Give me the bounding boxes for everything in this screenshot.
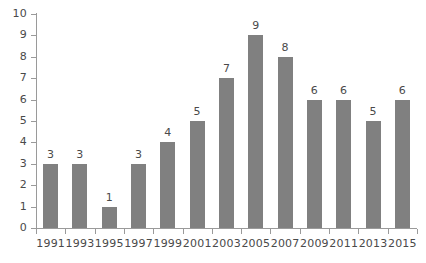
x-axis-tick: [124, 229, 125, 234]
y-axis-tick: [31, 57, 36, 58]
y-axis-tick: [31, 100, 36, 101]
bar: [278, 57, 293, 228]
y-axis-tick-label: 9: [3, 29, 27, 40]
x-axis-tick: [300, 229, 301, 234]
bar: [395, 100, 410, 228]
bar-value-label: 9: [236, 20, 276, 31]
x-axis-tick: [358, 229, 359, 234]
bar: [190, 121, 205, 228]
y-axis-tick-label: 3: [3, 158, 27, 169]
y-axis-tick: [31, 121, 36, 122]
y-axis-tick-label: 6: [3, 94, 27, 105]
y-axis-tick-label: 0: [3, 222, 27, 233]
x-axis-tick: [241, 229, 242, 234]
bar: [102, 207, 117, 228]
y-axis-tick: [31, 164, 36, 165]
x-axis-tick-label: 2015: [382, 238, 422, 249]
x-axis-tick: [153, 229, 154, 234]
x-axis-tick: [183, 229, 184, 234]
bar-value-label: 5: [177, 106, 217, 117]
y-axis-tick-label: 2: [3, 179, 27, 190]
x-axis-tick: [65, 229, 66, 234]
x-axis-tick: [417, 229, 418, 234]
x-axis-tick: [36, 229, 37, 234]
bar: [307, 100, 322, 228]
x-axis-tick: [388, 229, 389, 234]
x-axis-tick: [212, 229, 213, 234]
bar-value-label: 1: [89, 192, 129, 203]
bar-value-label: 4: [148, 127, 188, 138]
x-axis-tick: [329, 229, 330, 234]
y-axis-line: [36, 13, 37, 229]
bar: [248, 35, 263, 228]
bar: [160, 142, 175, 228]
y-axis-tick-label: 5: [3, 115, 27, 126]
y-axis-tick-label: 4: [3, 136, 27, 147]
bar-chart: 012345678910 3313457986656 1991199319951…: [0, 0, 426, 263]
bar-value-label: 3: [60, 149, 100, 160]
y-axis-tick: [31, 78, 36, 79]
y-axis-tick-label: 7: [3, 72, 27, 83]
y-axis-tick: [31, 35, 36, 36]
x-axis-tick: [95, 229, 96, 234]
y-axis-tick-label: 8: [3, 51, 27, 62]
y-axis-tick: [31, 14, 36, 15]
x-axis-tick: [270, 229, 271, 234]
bar: [43, 164, 58, 228]
y-axis-tick-label: 10: [3, 8, 27, 19]
y-axis-tick: [31, 142, 36, 143]
bar-value-label: 6: [324, 85, 364, 96]
bar: [366, 121, 381, 228]
bar-value-label: 6: [382, 85, 422, 96]
bar-value-label: 5: [353, 106, 393, 117]
y-axis-tick-label: 1: [3, 201, 27, 212]
bar-value-label: 7: [207, 63, 247, 74]
bar: [131, 164, 146, 228]
bar-value-label: 8: [265, 42, 305, 53]
bar-value-label: 3: [119, 149, 159, 160]
bar: [72, 164, 87, 228]
bar: [336, 100, 351, 228]
x-axis-line: [36, 228, 417, 229]
y-axis-tick: [31, 207, 36, 208]
y-axis-tick: [31, 185, 36, 186]
bar: [219, 78, 234, 228]
